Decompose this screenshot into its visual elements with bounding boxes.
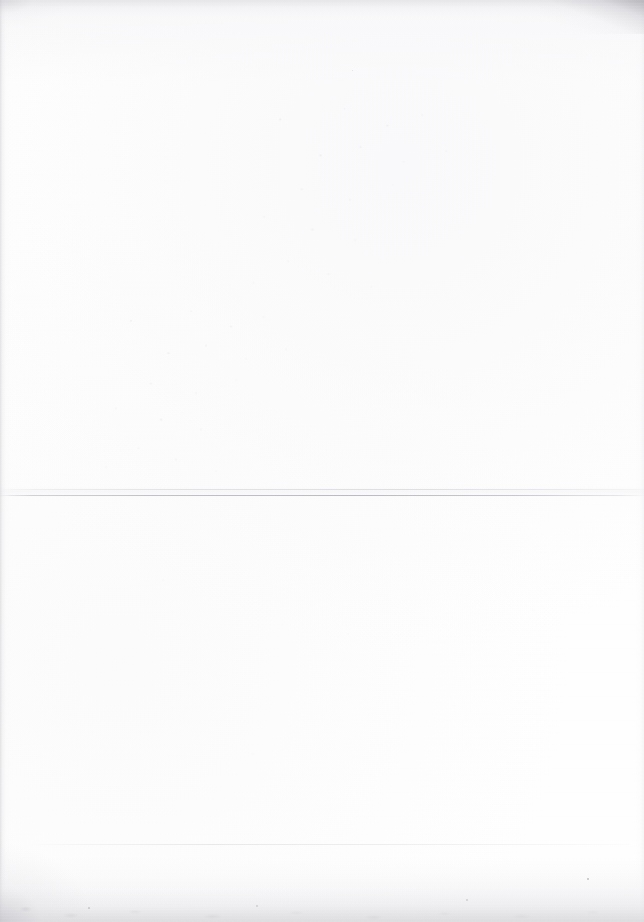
paper-background — [0, 0, 644, 922]
document-page: Blank scanned sheet of paper with two fa… — [0, 0, 644, 922]
